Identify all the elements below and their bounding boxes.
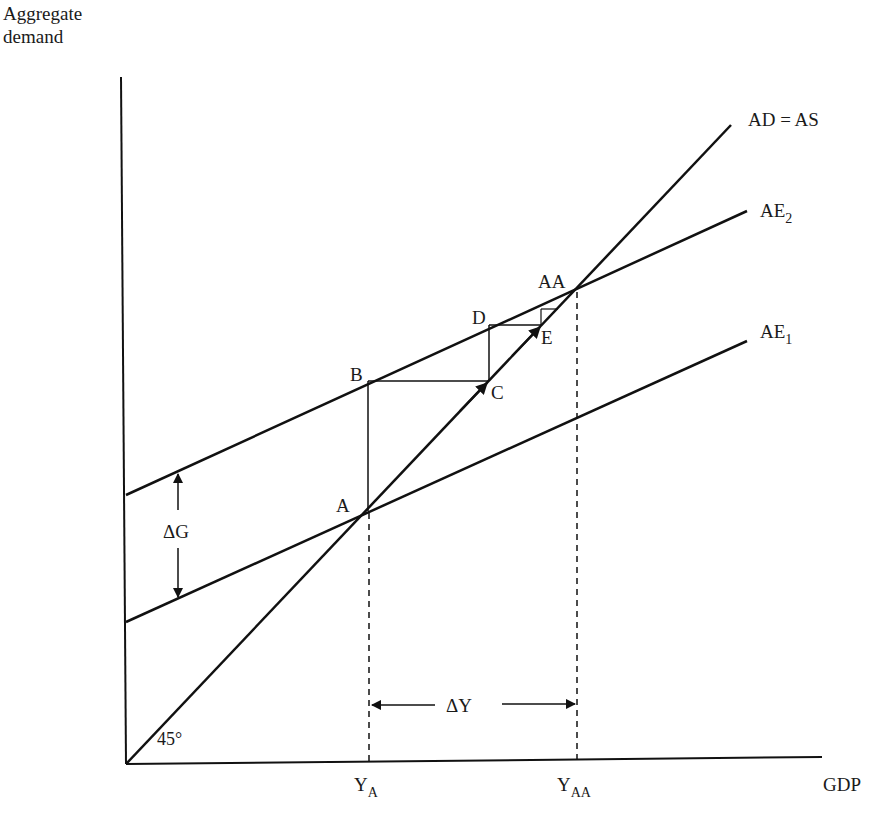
yaa-label-sub: AA xyxy=(571,785,592,800)
arrow-to-c xyxy=(460,383,487,411)
point-d-label: D xyxy=(472,307,486,328)
delta-g-label: ΔG xyxy=(163,521,189,542)
angle-label: 45° xyxy=(157,729,182,749)
multiplier-diagram: Aggregate demand GDP AD = AS AE2 AE1 A B… xyxy=(0,0,889,831)
y-axis-label-line1: Aggregate xyxy=(3,3,82,24)
delta-y-label: ΔY xyxy=(446,695,472,716)
x-axis xyxy=(126,757,822,764)
point-e-label: E xyxy=(541,327,553,348)
ae1-label: AE1 xyxy=(760,321,792,347)
point-aa-label: AA xyxy=(538,271,566,292)
ya-label-sub: A xyxy=(368,785,379,800)
y-axis xyxy=(121,77,126,764)
ae2-label-sub: 2 xyxy=(785,211,792,226)
ae1-label-base: AE xyxy=(760,321,785,342)
ya-label: YA xyxy=(354,774,379,800)
ya-label-base: Y xyxy=(354,774,368,795)
ae2-label-base: AE xyxy=(760,200,785,221)
ad-as-label: AD = AS xyxy=(748,109,819,130)
point-b-label: B xyxy=(350,364,363,385)
x-axis-label: GDP xyxy=(823,774,861,795)
ae1-label-sub: 1 xyxy=(785,332,792,347)
arrow-to-e xyxy=(512,327,540,356)
ae2-line xyxy=(126,211,747,495)
point-c-label: C xyxy=(491,382,504,403)
point-a-label: A xyxy=(336,495,350,516)
ae2-label: AE2 xyxy=(760,200,792,226)
yaa-label-base: Y xyxy=(557,774,571,795)
ae1-line xyxy=(126,341,747,622)
yaa-label: YAA xyxy=(557,774,592,800)
ad-as-line xyxy=(126,125,731,764)
y-axis-label-line2: demand xyxy=(3,26,64,47)
